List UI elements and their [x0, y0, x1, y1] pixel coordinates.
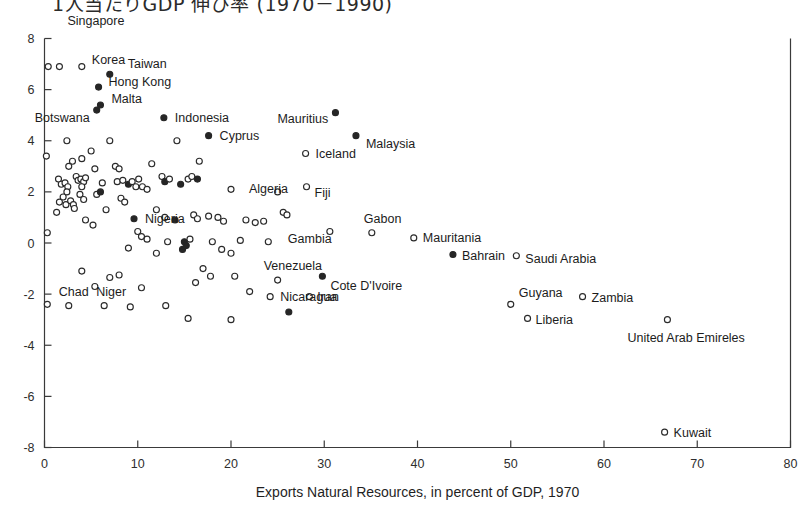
data-point	[178, 181, 184, 187]
point-label: Iran	[317, 290, 339, 304]
data-point	[194, 216, 200, 222]
point-label: Malta	[111, 92, 142, 106]
data-point	[56, 64, 62, 70]
data-point	[81, 197, 87, 203]
data-point	[286, 309, 292, 315]
point-labels-group: SingaporeKoreaTaiwanHong KongMaltaBotswa…	[35, 14, 745, 441]
data-point	[353, 133, 359, 139]
point-label: Mauritania	[423, 231, 481, 245]
point-label: Fiji	[315, 186, 331, 200]
point-label: Guyana	[519, 286, 563, 300]
chart-screenshot: 1人当たりGDP 伸び率 (1970－1990) 010203040506070…	[0, 0, 809, 511]
y-tick-label: -6	[23, 390, 34, 404]
data-point	[54, 209, 60, 215]
data-point	[265, 239, 271, 245]
data-point	[149, 161, 155, 167]
data-point	[125, 245, 131, 251]
data-point	[180, 246, 186, 252]
data-point	[662, 429, 668, 435]
y-tick-label: 4	[28, 134, 35, 148]
point-label: Bahrain	[462, 249, 505, 263]
data-point	[513, 253, 519, 259]
data-point	[166, 176, 172, 182]
point-label: Botswana	[35, 111, 90, 125]
data-point	[103, 207, 109, 213]
data-point	[207, 273, 213, 279]
data-point	[44, 301, 50, 307]
data-point	[200, 266, 206, 272]
data-point	[94, 107, 100, 113]
data-point	[209, 239, 215, 245]
data-point	[664, 317, 670, 323]
data-point	[193, 280, 199, 286]
data-point	[411, 235, 417, 241]
point-label: Indonesia	[175, 111, 229, 125]
plot-frame	[45, 39, 791, 448]
data-point	[284, 212, 290, 218]
point-label: Korea	[92, 53, 125, 67]
data-point	[83, 175, 89, 181]
data-point	[219, 246, 225, 252]
data-point	[228, 250, 234, 256]
y-tick-label: -8	[23, 441, 34, 455]
point-label: Niger	[96, 285, 126, 299]
y-tick-label: 2	[28, 185, 35, 199]
data-point	[206, 213, 212, 219]
data-point	[303, 151, 309, 157]
data-point	[144, 236, 150, 242]
point-label: Cote D'Ivoire	[330, 279, 402, 293]
data-point	[163, 303, 169, 309]
point-label: Algeria	[249, 182, 288, 196]
data-point	[232, 273, 238, 279]
data-point	[116, 272, 122, 278]
data-point	[88, 148, 94, 154]
point-label: Zambia	[592, 291, 634, 305]
data-point	[215, 214, 221, 220]
axis-title-group: Exports Natural Resources, in percent of…	[256, 484, 580, 500]
point-label: Hong Kong	[109, 75, 172, 89]
x-tick-label: 0	[41, 457, 48, 471]
data-point	[79, 64, 85, 70]
data-point	[319, 273, 325, 279]
scatter-plot: 0102030405060708086420-2-4-6-8 Singapore…	[0, 0, 809, 511]
point-label: Venezuela	[264, 259, 322, 273]
data-point	[79, 268, 85, 274]
point-label: Saudi Arabia	[525, 252, 596, 266]
data-point	[228, 317, 234, 323]
point-label: Gambia	[288, 232, 332, 246]
data-point	[508, 301, 514, 307]
data-point	[450, 252, 456, 258]
data-point	[43, 153, 49, 159]
data-point	[56, 199, 62, 205]
x-tick-label: 30	[317, 457, 331, 471]
data-point	[185, 315, 191, 321]
data-point	[44, 230, 50, 236]
data-point	[194, 176, 200, 182]
data-point	[243, 217, 249, 223]
point-label: Gabon	[364, 212, 402, 226]
data-point	[92, 166, 98, 172]
data-point	[267, 294, 273, 300]
data-point	[252, 220, 258, 226]
data-point	[153, 250, 159, 256]
y-tick-label: -2	[23, 288, 34, 302]
x-tick-label: 60	[597, 457, 611, 471]
data-point	[221, 218, 227, 224]
y-tick-label: -4	[23, 339, 34, 353]
data-point	[45, 64, 51, 70]
data-point	[127, 304, 133, 310]
data-point	[144, 186, 150, 192]
point-label: Malaysia	[366, 137, 415, 151]
point-label: Iceland	[316, 147, 356, 161]
data-point	[107, 275, 113, 281]
data-point	[66, 303, 72, 309]
data-point	[304, 184, 310, 190]
data-points-group	[43, 64, 670, 436]
data-point	[99, 180, 105, 186]
data-point	[120, 177, 126, 183]
data-point	[247, 289, 253, 295]
point-label: Nigeria	[145, 212, 185, 226]
point-label: Cyprus	[220, 129, 260, 143]
x-axis-title: Exports Natural Resources, in percent of…	[256, 484, 580, 500]
data-point	[133, 184, 139, 190]
